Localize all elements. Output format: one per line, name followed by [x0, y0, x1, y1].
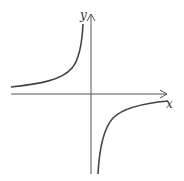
hyperbola-graph: y x: [0, 0, 184, 181]
x-axis: [11, 90, 167, 98]
y-axis-label: y: [79, 8, 87, 22]
x-axis-label: x: [166, 97, 173, 111]
curve-left-branch: [11, 24, 83, 87]
curve-right-branch: [98, 101, 168, 174]
